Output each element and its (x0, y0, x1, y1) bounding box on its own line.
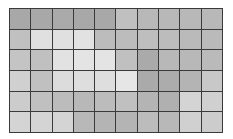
heatmap-cell-r0-c1 (31, 9, 51, 29)
heatmap-grid (9, 8, 223, 133)
heatmap-cell-r1-c2 (53, 30, 73, 50)
heatmap-cell-r5-c0 (10, 112, 30, 132)
heatmap-cell-r2-c6 (138, 50, 158, 70)
heatmap-cell-r3-c9 (202, 71, 222, 91)
heatmap-cell-r3-c5 (116, 71, 136, 91)
heatmap-cell-r2-c0 (10, 50, 30, 70)
heatmap-cell-r4-c5 (116, 92, 136, 112)
heatmap-cell-r2-c1 (31, 50, 51, 70)
heatmap-cell-r1-c4 (95, 30, 115, 50)
heatmap-cell-r3-c4 (95, 71, 115, 91)
heatmap-cell-r1-c6 (138, 30, 158, 50)
heatmap-cell-r0-c9 (202, 9, 222, 29)
heatmap-cell-r1-c7 (159, 30, 179, 50)
heatmap-cell-r5-c2 (53, 112, 73, 132)
heatmap-cell-r5-c6 (138, 112, 158, 132)
heatmap-cell-r3-c0 (10, 71, 30, 91)
heatmap-cell-r4-c2 (53, 92, 73, 112)
heatmap-cell-r1-c1 (31, 30, 51, 50)
heatmap-cell-r5-c7 (159, 112, 179, 132)
heatmap-cell-r0-c2 (53, 9, 73, 29)
heatmap-cell-r2-c3 (74, 50, 94, 70)
heatmap-cell-r1-c8 (180, 30, 200, 50)
heatmap-cell-r3-c6 (138, 71, 158, 91)
heatmap-cell-r5-c9 (202, 112, 222, 132)
heatmap-cell-r0-c5 (116, 9, 136, 29)
heatmap-cell-r2-c7 (159, 50, 179, 70)
heatmap-cell-r4-c1 (31, 92, 51, 112)
heatmap-cell-r2-c9 (202, 50, 222, 70)
heatmap-cell-r4-c4 (95, 92, 115, 112)
heatmap-cell-r0-c4 (95, 9, 115, 29)
heatmap-cell-r3-c2 (53, 71, 73, 91)
heatmap-cell-r1-c3 (74, 30, 94, 50)
heatmap-cell-r1-c5 (116, 30, 136, 50)
heatmap-cell-r2-c8 (180, 50, 200, 70)
heatmap-cell-r4-c7 (159, 92, 179, 112)
heatmap-cell-r3-c1 (31, 71, 51, 91)
heatmap-cell-r5-c5 (116, 112, 136, 132)
heatmap-cell-r5-c3 (74, 112, 94, 132)
heatmap-cell-r3-c7 (159, 71, 179, 91)
heatmap-cell-r0-c3 (74, 9, 94, 29)
heatmap-cell-r5-c4 (95, 112, 115, 132)
heatmap-cell-r3-c8 (180, 71, 200, 91)
heatmap-cell-r4-c0 (10, 92, 30, 112)
heatmap-cell-r5-c1 (31, 112, 51, 132)
heatmap-cell-r3-c3 (74, 71, 94, 91)
heatmap-cell-r2-c2 (53, 50, 73, 70)
heatmap-cell-r4-c3 (74, 92, 94, 112)
heatmap-cell-r1-c0 (10, 30, 30, 50)
heatmap-cell-r1-c9 (202, 30, 222, 50)
heatmap-cell-r0-c6 (138, 9, 158, 29)
heatmap-cell-r5-c8 (180, 112, 200, 132)
heatmap-cell-r4-c6 (138, 92, 158, 112)
heatmap-cell-r4-c9 (202, 92, 222, 112)
heatmap-cell-r2-c4 (95, 50, 115, 70)
heatmap-cell-r0-c0 (10, 9, 30, 29)
heatmap-cell-r2-c5 (116, 50, 136, 70)
heatmap-cell-r4-c8 (180, 92, 200, 112)
heatmap-cell-r0-c8 (180, 9, 200, 29)
heatmap-cell-r0-c7 (159, 9, 179, 29)
